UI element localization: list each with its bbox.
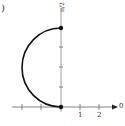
axis-arrow-icon — [112, 105, 118, 110]
polar-axis-label: 0 — [119, 103, 123, 110]
vertical-axis-label: π/2 — [59, 2, 65, 12]
semicircle-curve — [22, 28, 61, 107]
tick-label-2: 2 — [97, 112, 101, 119]
tick-label-1: 1 — [78, 112, 82, 119]
polar-graph — [0, 0, 125, 126]
endpoint-pole — [59, 105, 63, 109]
endpoint-top — [59, 26, 63, 30]
